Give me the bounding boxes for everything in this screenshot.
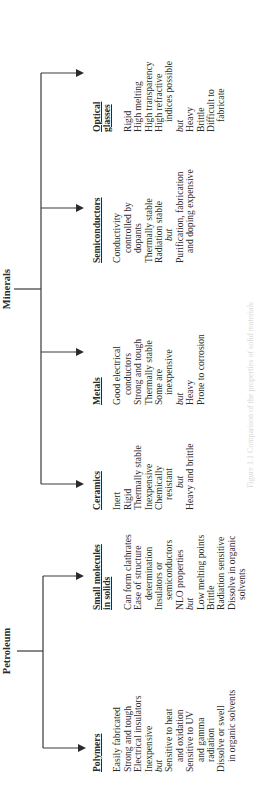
category-header-line: Metals <box>92 334 102 405</box>
property-line: in organic solvents <box>227 690 237 772</box>
category-header: Opticalglasses <box>92 61 113 132</box>
category-small-molecules: Small moleculesin solidsCan form clathra… <box>92 534 248 610</box>
category-header-line: Ceramics <box>92 443 102 510</box>
arrow-icon <box>76 348 84 356</box>
category-header: Metals <box>92 334 102 405</box>
arrow-icon <box>76 480 84 488</box>
category-header-line: Polymers <box>92 690 102 772</box>
arrow-icon <box>78 744 86 752</box>
property-line: fabricate <box>216 61 226 132</box>
category-optical-glasses: OpticalglassesRigidHigh meltingHigh tran… <box>92 61 227 132</box>
category-semiconductors: SemiconductorsConductivitycontrolled byd… <box>92 169 196 263</box>
arrow-icon <box>76 69 84 77</box>
arrow-icon <box>76 572 84 580</box>
root-minerals: Minerals <box>1 269 13 309</box>
property-line: Prone to corrosion <box>196 334 206 405</box>
category-header-line: in solids <box>102 534 112 610</box>
property-line: Radiation stable <box>154 169 164 263</box>
property-line: and doping expensive <box>185 169 195 263</box>
rotated-page: Minerals Petroleum PolymersEasily fabric… <box>0 0 263 788</box>
category-header: Polymers <box>92 690 102 772</box>
root-petroleum: Petroleum <box>1 628 13 674</box>
arrow-icon <box>76 204 84 212</box>
category-metals: MetalsGood electricalconductorsStrong an… <box>92 334 206 405</box>
category-polymers: PolymersEasily fabricatedStrong and toug… <box>92 690 237 772</box>
category-header-line: Semiconductors <box>92 169 102 263</box>
category-header-line: glasses <box>102 61 112 132</box>
property-line: Heavy and brittle <box>185 443 195 510</box>
category-header: Semiconductors <box>92 169 102 263</box>
category-ceramics: CeramicsInertRigidThermally stableInexpe… <box>92 443 196 510</box>
category-header: Small moleculesin solids <box>92 534 113 610</box>
property-line: solvents <box>237 534 247 610</box>
category-header: Ceramics <box>92 443 102 510</box>
figure-caption: Figure 1.1 Comparison of the properties … <box>246 302 255 488</box>
